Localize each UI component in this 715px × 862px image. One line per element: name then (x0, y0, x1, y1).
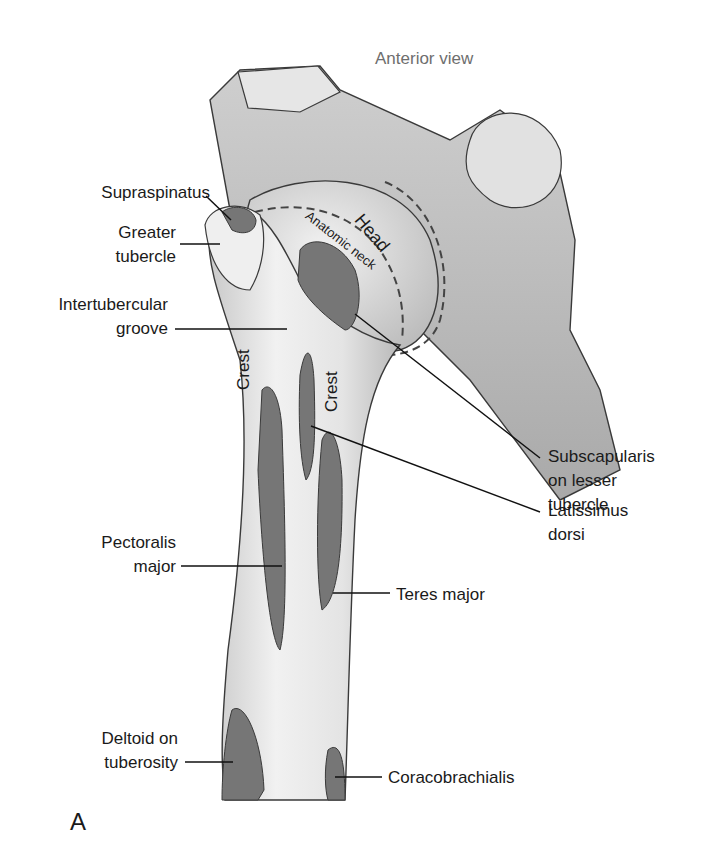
structure-label-crest-right: Crest (322, 371, 342, 412)
panel-letter: A (70, 808, 86, 836)
label-pectoralis-line1: Pectoralis (40, 532, 176, 553)
latissimus-attachment (299, 353, 314, 480)
label-pectoralis-line2: major (40, 556, 176, 577)
label-intertubercular-line1: Intertubercular (20, 294, 168, 315)
label-latissimus-line1: Latissimus (548, 500, 628, 521)
view-title: Anterior view (375, 48, 473, 69)
label-intertubercular-line2: groove (20, 318, 168, 339)
label-subscapularis-line2: on lesser (548, 470, 617, 491)
structure-label-crest-left: Crest (234, 349, 254, 390)
label-latissimus-line2: dorsi (548, 524, 585, 545)
label-deltoid-line2: tuberosity (40, 752, 178, 773)
label-supraspinatus: Supraspinatus (64, 182, 210, 203)
label-greater-tubercle-line2: tubercle (64, 246, 176, 267)
label-deltoid-line1: Deltoid on (40, 728, 178, 749)
label-coracobrachialis: Coracobrachialis (388, 767, 515, 788)
label-greater-tubercle-line1: Greater (64, 222, 176, 243)
label-teres-major: Teres major (396, 584, 485, 605)
label-subscapularis-line1: Subscapularis (548, 446, 655, 467)
